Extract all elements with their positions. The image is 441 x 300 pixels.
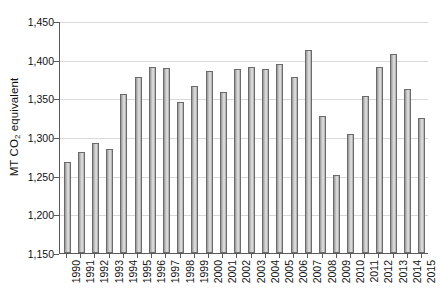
bar-1996[interactable] — [149, 67, 156, 253]
bar-1990[interactable] — [64, 162, 71, 253]
x-tick-mark — [322, 254, 323, 258]
bar-2010[interactable] — [347, 134, 354, 253]
x-tick-mark — [251, 254, 252, 258]
x-tick-mark — [407, 254, 408, 258]
bar-2006[interactable] — [291, 77, 298, 253]
x-tick-mark — [80, 254, 81, 258]
bar-2000[interactable] — [206, 71, 213, 254]
bar-2013[interactable] — [390, 54, 397, 253]
bar-2012[interactable] — [376, 67, 383, 253]
x-tick-label-1991: 1991 — [85, 260, 96, 283]
y-tick-mark — [54, 254, 59, 255]
y-tick-label: 1,200 — [6, 210, 54, 220]
x-tick-label-2001: 2001 — [227, 260, 238, 283]
x-tick-mark — [378, 254, 379, 258]
bar-2001[interactable] — [220, 92, 227, 253]
x-tick-mark — [336, 254, 337, 258]
bar-1994[interactable] — [120, 94, 127, 253]
x-tick-mark — [180, 254, 181, 258]
x-tick-label-2009: 2009 — [341, 260, 352, 283]
y-tick-label: 1,350 — [6, 94, 54, 104]
x-tick-label-1990: 1990 — [71, 260, 82, 283]
x-tick-mark — [94, 254, 95, 258]
x-tick-label-2014: 2014 — [412, 260, 423, 283]
bar-2015[interactable] — [418, 118, 425, 253]
bar-1991[interactable] — [78, 152, 85, 253]
x-tick-mark — [194, 254, 195, 258]
x-tick-label-2004: 2004 — [270, 260, 281, 283]
y-tick-label: 1,450 — [6, 17, 54, 27]
x-tick-mark — [66, 254, 67, 258]
x-tick-mark — [151, 254, 152, 258]
x-tick-mark — [236, 254, 237, 258]
x-tick-label-1998: 1998 — [185, 260, 196, 283]
y-tick-label: 1,150 — [6, 249, 54, 259]
x-tick-mark — [265, 254, 266, 258]
y-tick-label: 1,400 — [6, 56, 54, 66]
x-tick-label-2005: 2005 — [284, 260, 295, 283]
x-tick-label-1994: 1994 — [128, 260, 139, 283]
x-tick-label-2015: 2015 — [426, 260, 437, 283]
x-tick-mark — [222, 254, 223, 258]
bar-chart: MT CO2 equivalent 1,4501,4001,3501,3001,… — [0, 0, 441, 300]
x-tick-label-1997: 1997 — [170, 260, 181, 283]
bar-2003[interactable] — [248, 67, 255, 253]
x-tick-mark — [393, 254, 394, 258]
y-tick-label: 1,300 — [6, 133, 54, 143]
x-tick-label-2012: 2012 — [383, 260, 394, 283]
x-tick-mark — [123, 254, 124, 258]
x-tick-label-2000: 2000 — [213, 260, 224, 283]
bar-2014[interactable] — [404, 89, 411, 253]
x-tick-mark — [137, 254, 138, 258]
bar-2005[interactable] — [276, 64, 283, 253]
x-tick-label-2008: 2008 — [327, 260, 338, 283]
bar-1999[interactable] — [191, 86, 198, 253]
bar-2007[interactable] — [305, 50, 312, 253]
x-tick-mark — [279, 254, 280, 258]
bar-1995[interactable] — [135, 77, 142, 253]
bar-2008[interactable] — [319, 116, 326, 253]
x-tick-mark — [350, 254, 351, 258]
y-tick-label: 1,250 — [6, 172, 54, 182]
y-axis-title-suffix: equivalent — [8, 78, 20, 135]
bar-1998[interactable] — [177, 102, 184, 253]
bars-layer — [60, 22, 428, 253]
bar-1992[interactable] — [92, 143, 99, 253]
x-tick-label-2013: 2013 — [398, 260, 409, 283]
x-tick-label-2002: 2002 — [241, 260, 252, 283]
x-tick-label-2011: 2011 — [369, 260, 380, 283]
x-tick-label-2003: 2003 — [256, 260, 267, 283]
x-tick-label-2010: 2010 — [355, 260, 366, 283]
x-tick-mark — [364, 254, 365, 258]
x-tick-mark — [208, 254, 209, 258]
y-axis-title: MT CO2 equivalent — [3, 11, 25, 243]
plot-area — [59, 22, 428, 254]
x-tick-mark — [109, 254, 110, 258]
x-tick-mark — [421, 254, 422, 258]
x-tick-label-2007: 2007 — [312, 260, 323, 283]
x-tick-mark — [307, 254, 308, 258]
x-tick-mark — [293, 254, 294, 258]
bar-2004[interactable] — [262, 69, 269, 253]
bar-2011[interactable] — [362, 96, 369, 253]
x-tick-label-1993: 1993 — [114, 260, 125, 283]
x-tick-label-1996: 1996 — [156, 260, 167, 283]
bar-2009[interactable] — [333, 175, 340, 253]
bar-2002[interactable] — [234, 69, 241, 253]
x-tick-mark — [165, 254, 166, 258]
x-tick-label-1995: 1995 — [142, 260, 153, 283]
x-tick-label-1999: 1999 — [199, 260, 210, 283]
bar-1993[interactable] — [106, 149, 113, 253]
x-tick-label-2006: 2006 — [298, 260, 309, 283]
bar-1997[interactable] — [163, 68, 170, 253]
x-tick-label-1992: 1992 — [99, 260, 110, 283]
